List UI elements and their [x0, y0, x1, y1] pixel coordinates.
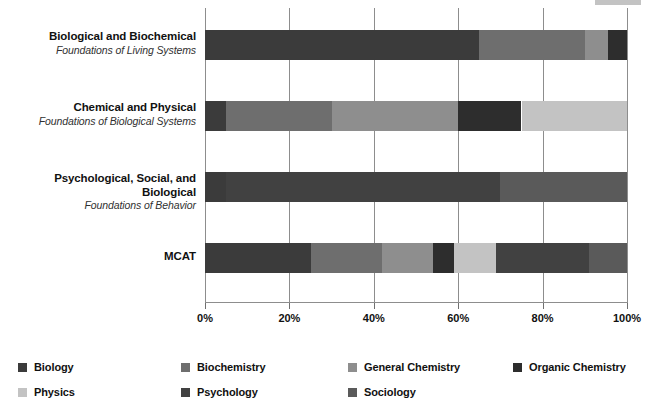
legend-item-psychology[interactable]: Psychology	[181, 386, 258, 398]
category-label-subtitle: Foundations of Behavior	[0, 199, 196, 211]
bar-segment-psychology[interactable]	[226, 172, 500, 202]
category-label-subtitle: Foundations of Living Systems	[0, 44, 196, 56]
bar-segment-psychology[interactable]	[496, 243, 589, 273]
bar-segment-biochemistry[interactable]	[226, 101, 332, 131]
legend-item-biology[interactable]: Biology	[18, 361, 74, 373]
tick-mark-60%	[458, 303, 459, 309]
category-label-title: MCAT	[0, 250, 196, 264]
stacked-bar-chart: Biological and BiochemicalFoundations of…	[0, 0, 653, 413]
x-tick-label: 40%	[363, 312, 385, 324]
legend-item-general-chemistry[interactable]: General Chemistry	[348, 361, 460, 373]
x-tick-label: 80%	[532, 312, 554, 324]
category-label-title: Psychological, Social, and Biological	[0, 172, 196, 199]
bar-segment-sociology[interactable]	[589, 243, 627, 273]
bar-row[interactable]	[205, 101, 627, 131]
category-label: Biological and BiochemicalFoundations of…	[0, 30, 196, 56]
legend-item-physics[interactable]: Physics	[18, 386, 75, 398]
legend-swatch-icon	[18, 363, 27, 372]
bar-row[interactable]	[205, 30, 627, 60]
legend-item-sociology[interactable]: Sociology	[348, 386, 416, 398]
bar-segment-sociology[interactable]	[500, 172, 627, 202]
bar-segment-physics[interactable]	[522, 101, 628, 131]
legend-label: Organic Chemistry	[529, 361, 626, 373]
legend-label: Biology	[34, 361, 74, 373]
legend-swatch-icon	[181, 388, 190, 397]
legend-swatch-icon	[513, 363, 522, 372]
x-axis-tick-labels: 0%20%40%60%80%100%	[0, 312, 653, 328]
x-tick-label: 100%	[613, 312, 641, 324]
legend-swatch-icon	[348, 388, 357, 397]
legend-item-organic-chemistry[interactable]: Organic Chemistry	[513, 361, 626, 373]
category-label: MCAT	[0, 250, 196, 264]
category-label-title: Chemical and Physical	[0, 101, 196, 115]
tick-mark-100%	[627, 303, 628, 309]
bar-segment-organic-chemistry[interactable]	[608, 30, 627, 60]
bar-row[interactable]	[205, 172, 627, 202]
x-axis-line	[205, 302, 628, 303]
bar-segment-biochemistry[interactable]	[311, 243, 383, 273]
bar-segment-biology[interactable]	[205, 101, 226, 131]
bar-segment-biology[interactable]	[205, 172, 226, 202]
category-label-title: Biological and Biochemical	[0, 30, 196, 44]
legend-item-biochemistry[interactable]: Biochemistry	[181, 361, 266, 373]
bar-segment-general-chemistry[interactable]	[332, 101, 459, 131]
tick-mark-0%	[205, 303, 206, 309]
bar-row[interactable]	[205, 243, 627, 273]
legend-label: General Chemistry	[364, 361, 460, 373]
category-label: Chemical and PhysicalFoundations of Biol…	[0, 101, 196, 127]
gridline-100%	[627, 8, 628, 303]
legend-swatch-icon	[181, 363, 190, 372]
legend-swatch-icon	[348, 363, 357, 372]
tick-mark-20%	[289, 303, 290, 309]
legend-label: Sociology	[364, 386, 416, 398]
category-label: Psychological, Social, and BiologicalFou…	[0, 172, 196, 212]
legend-label: Physics	[34, 386, 75, 398]
tick-mark-40%	[374, 303, 375, 309]
x-tick-label: 0%	[197, 312, 213, 324]
bar-segment-organic-chemistry[interactable]	[458, 101, 521, 131]
legend-label: Psychology	[197, 386, 258, 398]
legend-swatch-icon	[18, 388, 27, 397]
bar-segment-biochemistry[interactable]	[479, 30, 585, 60]
category-label-subtitle: Foundations of Biological Systems	[0, 115, 196, 127]
x-tick-label: 60%	[447, 312, 469, 324]
bar-segment-biology[interactable]	[205, 243, 311, 273]
bar-segment-organic-chemistry[interactable]	[433, 243, 454, 273]
bar-segment-general-chemistry[interactable]	[585, 30, 608, 60]
top-edge-artifact	[595, 0, 641, 5]
bar-segment-general-chemistry[interactable]	[382, 243, 433, 273]
bar-segment-physics[interactable]	[454, 243, 496, 273]
x-tick-label: 20%	[278, 312, 300, 324]
tick-mark-80%	[543, 303, 544, 309]
bar-segment-biology[interactable]	[205, 30, 479, 60]
legend-label: Biochemistry	[197, 361, 266, 373]
